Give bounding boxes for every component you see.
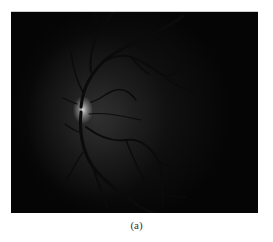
- fundus-image: [11, 11, 258, 213]
- figure-caption: (a): [0, 219, 273, 231]
- retinal-vessels: [11, 12, 258, 213]
